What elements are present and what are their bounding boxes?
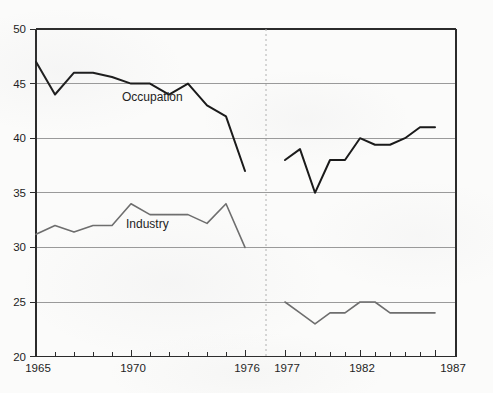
chart-container: 50 45 40 35 30 25 20 1965 1970 1976 1977…	[0, 0, 493, 393]
y-tick-label: 45	[13, 78, 26, 90]
y-tick-label: 20	[13, 351, 26, 363]
series-line-occupation-left	[36, 62, 245, 171]
series-label-occupation: Occupation	[122, 90, 183, 104]
x-tick-label: 1970	[120, 362, 146, 374]
gridlines	[36, 84, 456, 302]
x-tick-label: 1965	[25, 362, 51, 374]
x-tick-label: 1976	[234, 362, 260, 374]
y-tick-label: 25	[13, 296, 26, 308]
series-line-occupation-right	[285, 127, 435, 193]
y-tick-label: 30	[13, 241, 26, 253]
series-label-industry: Industry	[126, 217, 169, 231]
y-tick-label: 50	[13, 23, 26, 35]
x-tick-label: 1987	[440, 362, 466, 374]
y-axis-labels: 50 45 40 35 30 25 20	[13, 23, 26, 363]
x-tick-label: 1977	[274, 362, 300, 374]
x-axis-labels: 1965 1970 1976 1977 1982 1987	[25, 362, 466, 374]
line-chart: 50 45 40 35 30 25 20 1965 1970 1976 1977…	[0, 0, 493, 393]
x-tick-label: 1982	[349, 362, 375, 374]
x-axis-ticks	[36, 350, 456, 357]
series-line-industry-right	[285, 302, 435, 324]
y-axis-ticks	[30, 29, 36, 357]
y-tick-label: 35	[13, 187, 26, 199]
y-tick-label: 40	[13, 132, 26, 144]
